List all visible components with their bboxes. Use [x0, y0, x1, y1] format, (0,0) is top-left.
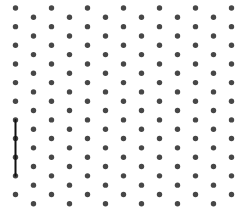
- grid-dot: [193, 80, 198, 85]
- grid-dot: [31, 15, 36, 20]
- isometric-dot-grid-canvas: [0, 0, 252, 219]
- grid-dot: [85, 192, 90, 197]
- grid-dot: [193, 61, 198, 66]
- grid-dot: [85, 24, 90, 29]
- grid-dot: [211, 52, 216, 57]
- grid-dot: [193, 173, 198, 178]
- grid-dot: [103, 71, 108, 76]
- grid-dot: [139, 201, 144, 206]
- grid-dot: [31, 71, 36, 76]
- grid-dot: [193, 24, 198, 29]
- grid-dot: [121, 61, 126, 66]
- grid-dot: [13, 80, 18, 85]
- grid-dot: [85, 99, 90, 104]
- grid-dot: [49, 173, 54, 178]
- grid-dot: [49, 61, 54, 66]
- grid-dot: [211, 164, 216, 169]
- grid-dot: [211, 71, 216, 76]
- grid-dot: [85, 5, 90, 10]
- grid-dot: [103, 164, 108, 169]
- grid-dot: [49, 43, 54, 48]
- grid-dot: [67, 33, 72, 38]
- grid-dot: [13, 24, 18, 29]
- grid-dot: [85, 136, 90, 141]
- grid-dot: [103, 52, 108, 57]
- grid-dot: [31, 182, 36, 187]
- grid-dot: [103, 15, 108, 20]
- grid-dot: [157, 155, 162, 160]
- grid-dot: [121, 24, 126, 29]
- grid-dot: [67, 15, 72, 20]
- grid-dot: [193, 43, 198, 48]
- grid-dot: [85, 80, 90, 85]
- grid-dot: [67, 71, 72, 76]
- grid-dot: [175, 145, 180, 150]
- grid-dot: [193, 136, 198, 141]
- grid-dot: [31, 127, 36, 132]
- grid-dot: [139, 108, 144, 113]
- grid-dot: [229, 136, 234, 141]
- grid-dot: [175, 33, 180, 38]
- grid-dot: [139, 52, 144, 57]
- grid-dot: [121, 80, 126, 85]
- grid-dot: [157, 43, 162, 48]
- grid-dot: [49, 155, 54, 160]
- grid-dot: [31, 89, 36, 94]
- grid-dot: [67, 127, 72, 132]
- grid-dot: [229, 43, 234, 48]
- grid-dot: [211, 127, 216, 132]
- grid-dot: [103, 33, 108, 38]
- grid-dot: [175, 89, 180, 94]
- grid-dot: [13, 43, 18, 48]
- grid-dot: [121, 192, 126, 197]
- grid-dot: [175, 127, 180, 132]
- grid-dot: [175, 71, 180, 76]
- grid-dot: [49, 24, 54, 29]
- grid-dot: [175, 108, 180, 113]
- grid-dot: [103, 145, 108, 150]
- grid-dot: [67, 89, 72, 94]
- grid-dot: [13, 99, 18, 104]
- grid-dot: [103, 108, 108, 113]
- grid-dot: [139, 15, 144, 20]
- dot-grid: [13, 5, 234, 206]
- grid-dot: [175, 182, 180, 187]
- grid-dot: [31, 52, 36, 57]
- grid-dot: [157, 61, 162, 66]
- grid-dot: [193, 117, 198, 122]
- grid-dot: [31, 164, 36, 169]
- grid-dot: [121, 43, 126, 48]
- grid-dot: [67, 182, 72, 187]
- grid-dot: [121, 5, 126, 10]
- grid-dot: [157, 80, 162, 85]
- grid-dot: [229, 24, 234, 29]
- grid-dot: [211, 145, 216, 150]
- grid-dot: [85, 155, 90, 160]
- grid-dot: [121, 136, 126, 141]
- grid-dot: [49, 117, 54, 122]
- grid-dot: [103, 182, 108, 187]
- grid-dot: [13, 192, 18, 197]
- grid-dot: [229, 5, 234, 10]
- grid-dot: [103, 127, 108, 132]
- grid-dot: [229, 117, 234, 122]
- grid-dot: [139, 182, 144, 187]
- grid-dot: [157, 24, 162, 29]
- grid-dot: [49, 136, 54, 141]
- grid-dot: [175, 52, 180, 57]
- grid-dot: [85, 61, 90, 66]
- grid-dot: [49, 80, 54, 85]
- grid-dot: [121, 155, 126, 160]
- grid-dot: [175, 15, 180, 20]
- grid-dot: [157, 136, 162, 141]
- grid-dot: [157, 5, 162, 10]
- grid-dot: [175, 164, 180, 169]
- grid-dot: [67, 201, 72, 206]
- grid-dot: [121, 99, 126, 104]
- grid-dot: [139, 71, 144, 76]
- grid-dot: [193, 155, 198, 160]
- grid-dot: [157, 192, 162, 197]
- grid-dot: [49, 99, 54, 104]
- grid-dot: [229, 80, 234, 85]
- grid-dot: [139, 145, 144, 150]
